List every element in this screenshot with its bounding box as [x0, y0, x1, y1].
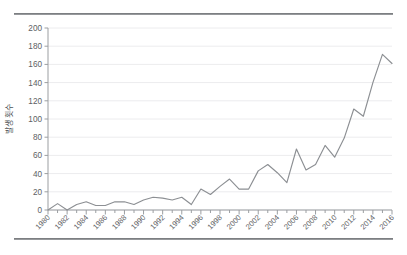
x-tick-label-1990: 1990	[129, 213, 147, 231]
line-chart: 020406080100120140160180200 198019821984…	[0, 20, 407, 235]
x-tick-label-1996: 1996	[186, 213, 204, 231]
y-tick-label-80: 80	[33, 133, 43, 142]
gridlines-group	[48, 28, 392, 210]
x-tick-label-1986: 1986	[91, 213, 109, 231]
y-tick-label-120: 120	[28, 97, 42, 106]
y-tick-label-60: 60	[33, 151, 43, 160]
x-tick-label-2008: 2008	[301, 213, 319, 231]
x-tick-label-2014: 2014	[358, 213, 376, 231]
x-tick-labels: 1980198219841986198819901992199419961998…	[34, 213, 396, 231]
chart-plot-area: 020406080100120140160180200 198019821984…	[0, 20, 407, 235]
x-tick-label-1988: 1988	[110, 213, 128, 231]
x-tick-label-1980: 1980	[34, 213, 52, 231]
x-tick-label-2016: 2016	[378, 213, 396, 231]
x-tick-label-2000: 2000	[225, 213, 243, 231]
y-tick-label-180: 180	[28, 42, 42, 51]
x-tick-label-1984: 1984	[72, 213, 90, 231]
x-tick-label-1994: 1994	[167, 213, 185, 231]
top-divider-rule	[14, 13, 393, 15]
y-tick-label-100: 100	[28, 115, 42, 124]
x-tick-label-1982: 1982	[53, 213, 71, 231]
y-tick-marks	[45, 28, 49, 210]
x-tick-label-1992: 1992	[148, 213, 166, 231]
x-tick-label-2002: 2002	[244, 213, 262, 231]
data-series-group	[48, 54, 392, 210]
y-tick-labels: 020406080100120140160180200	[28, 24, 42, 215]
y-tick-label-160: 160	[28, 60, 42, 69]
x-tick-label-1998: 1998	[206, 213, 224, 231]
x-tick-label-2004: 2004	[263, 213, 281, 231]
y-tick-label-20: 20	[33, 188, 43, 197]
figure-container: 020406080100120140160180200 198019821984…	[0, 0, 407, 255]
y-tick-label-200: 200	[28, 24, 42, 33]
x-tick-label-2010: 2010	[320, 213, 338, 231]
x-tick-marks	[48, 210, 392, 215]
y-axis-title: 발생 횟수	[4, 104, 14, 134]
x-tick-label-2006: 2006	[282, 213, 300, 231]
bottom-divider-rule	[14, 238, 393, 240]
x-tick-label-2012: 2012	[339, 213, 357, 231]
series-line-occurrences	[48, 54, 392, 210]
y-tick-label-140: 140	[28, 79, 42, 88]
y-tick-label-40: 40	[33, 170, 43, 179]
y-tick-label-0: 0	[37, 206, 42, 215]
